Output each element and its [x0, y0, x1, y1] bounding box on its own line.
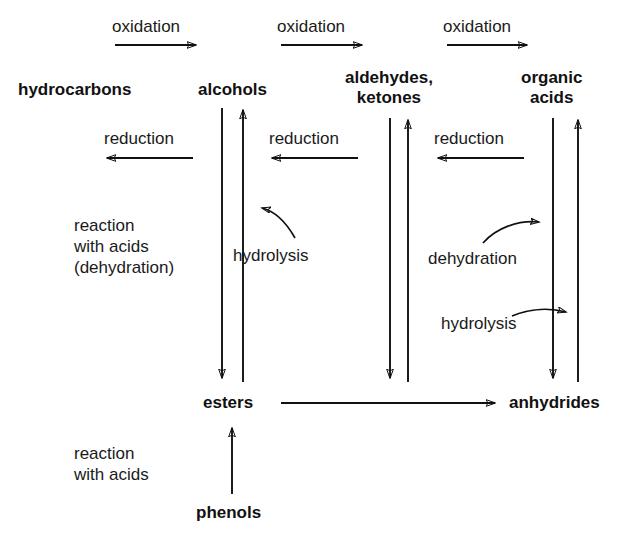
node-esters: esters	[203, 393, 253, 413]
hydrolysis-curve-2	[512, 309, 566, 316]
edge-label-dehydration: dehydration	[428, 248, 517, 269]
hydrolysis-curve-1	[262, 208, 295, 238]
edge-label-oxidation-3: oxidation	[443, 16, 511, 37]
node-phenols: phenols	[196, 503, 261, 523]
node-aldehydes-ketones: aldehydes, ketones	[345, 68, 433, 108]
edge-label-oxidation-1: oxidation	[112, 16, 180, 37]
edge-label-reduction-3: reduction	[434, 128, 504, 149]
edge-label-reduction-1: reduction	[104, 128, 174, 149]
edge-label-oxidation-2: oxidation	[277, 16, 345, 37]
edge-label-hydrolysis-1: hydrolysis	[233, 245, 309, 266]
edge-label-reduction-2: reduction	[269, 128, 339, 149]
node-anhydrides: anhydrides	[509, 393, 600, 413]
edge-label-reaction-with-acids-dehydration: reaction with acids (dehydration)	[74, 215, 174, 278]
dehydration-curve	[483, 222, 539, 243]
edge-label-hydrolysis-2: hydrolysis	[441, 313, 517, 334]
edge-label-reaction-with-acids: reaction with acids	[74, 443, 149, 485]
node-organic-acids: organic acids	[521, 68, 582, 108]
node-hydrocarbons: hydrocarbons	[18, 80, 131, 100]
node-alcohols: alcohols	[198, 80, 267, 100]
reaction-pathway-diagram: hydrocarbons alcohols aldehydes, ketones…	[0, 0, 641, 551]
